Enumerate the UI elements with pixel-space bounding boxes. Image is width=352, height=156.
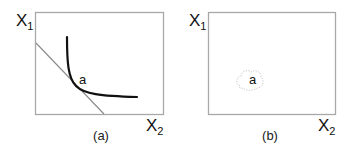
- diagram-canvas: X1 X2 a (a) X1 X2 a (b): [0, 0, 352, 156]
- panel-b: X1 X2 a (b): [189, 11, 336, 143]
- panel-a-x-axis-label: X2: [146, 116, 163, 137]
- panel-b-caption: (b): [262, 128, 278, 143]
- panel-b-point-label: a: [249, 72, 257, 87]
- panel-b-frame: [209, 13, 336, 115]
- budget-line: [36, 43, 104, 114]
- panel-a-y-axis-label: X1: [16, 11, 33, 32]
- indifference-curve: [67, 37, 137, 97]
- panel-b-x-axis-label: X2: [318, 116, 335, 137]
- panel-a-caption: (a): [93, 128, 109, 143]
- panel-a: X1 X2 a (a): [16, 11, 164, 143]
- panel-a-frame: [36, 13, 164, 115]
- panel-a-point-label: a: [79, 72, 87, 87]
- panel-b-y-axis-label: X1: [189, 11, 206, 32]
